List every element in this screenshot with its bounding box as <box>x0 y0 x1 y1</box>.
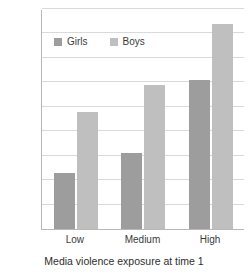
gridline <box>42 8 244 9</box>
legend-item-girls: Girls <box>54 36 88 47</box>
bar-girls-medium <box>121 153 142 229</box>
bar-chart: 0102030405060708090% GirlsBoys LowMedium… <box>0 0 248 278</box>
x-axis-tick-labels: LowMediumHigh <box>41 234 244 250</box>
legend-label: Girls <box>67 36 88 47</box>
legend-label: Boys <box>123 36 145 47</box>
x-tick-label: Medium <box>109 234 177 245</box>
bar-boys-high <box>212 24 233 229</box>
bar-boys-low <box>77 112 98 229</box>
x-axis-title: Media violence exposure at time 1 <box>0 255 248 267</box>
bar-girls-low <box>54 173 75 229</box>
x-tick-label: Low <box>41 234 109 245</box>
x-tick-label: High <box>176 234 244 245</box>
legend-swatch-icon <box>54 38 62 46</box>
bar-boys-medium <box>144 85 165 229</box>
legend-item-boys: Boys <box>110 36 145 47</box>
legend-swatch-icon <box>110 38 118 46</box>
legend: GirlsBoys <box>54 36 145 47</box>
bar-group <box>177 10 245 229</box>
bar-girls-high <box>189 80 210 229</box>
